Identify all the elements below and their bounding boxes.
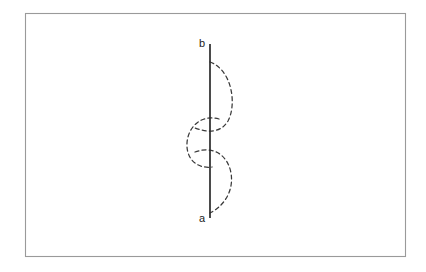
knot-diagram-svg: b a bbox=[0, 0, 426, 272]
figure-container: b a bbox=[0, 0, 426, 272]
figure-border bbox=[26, 14, 406, 257]
label-a: a bbox=[199, 212, 206, 224]
label-b: b bbox=[199, 37, 205, 49]
